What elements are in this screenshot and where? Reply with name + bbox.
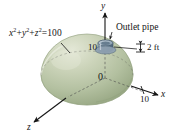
equation-value: 100 — [47, 28, 62, 38]
math-figure-hemispherical-tank: x2+y2+z2=100 Outlet pipe 2 ft 10 10 0 x … — [0, 0, 174, 136]
pipe-flange — [95, 46, 116, 54]
dome-highlight — [51, 50, 81, 70]
outlet-pipe — [95, 40, 116, 54]
x-tick-label-10: 10 — [140, 95, 149, 104]
pipe-diameter-label: 2 ft — [147, 43, 159, 52]
z-axis-label: z — [27, 123, 31, 133]
y-tick-label-10: 10 — [88, 43, 97, 52]
outlet-pipe-label: Outlet pipe — [116, 23, 158, 33]
outlet-pipe-leader — [110, 32, 112, 39]
origin-label: 0 — [98, 72, 103, 82]
y-axis-label: y — [101, 2, 105, 12]
figure-canvas — [0, 0, 174, 136]
z-axis — [34, 98, 66, 122]
sphere-equation: x2+y2+z2=100 — [9, 29, 62, 39]
x-axis-label: x — [161, 90, 165, 100]
pipe-bore — [101, 42, 110, 45]
hemisphere-dome — [41, 34, 133, 105]
